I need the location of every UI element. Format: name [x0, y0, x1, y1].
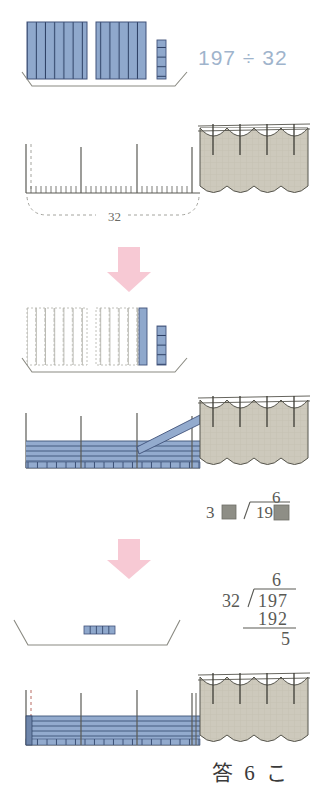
answer-text: 答 6 こ [212, 756, 290, 786]
down-arrow-2 [107, 539, 151, 579]
section-initial-blocks [22, 22, 187, 86]
section-remainder-tray [14, 620, 180, 645]
down-arrow-1 [107, 247, 151, 292]
long-division-remainder: 5 [281, 629, 290, 650]
equation-label: 197 ÷ 32 [198, 46, 288, 70]
section-ruler-curtain-1 [26, 124, 310, 215]
curtain-2 [198, 396, 310, 465]
covered-division-divisor: 3 [206, 503, 215, 523]
section-ghost-blocks [22, 308, 187, 372]
long-division-product: 192 [258, 609, 288, 630]
long-division-divisor: 32 [222, 591, 240, 612]
illustration-stage: 197 ÷ 32 32 6 3 19 6 32 197 192 5 答 6 こ [0, 0, 316, 787]
covered-quotient-digit: 6 [272, 488, 281, 508]
curtain-3 [198, 673, 310, 742]
section-ruler-filled-final [26, 673, 310, 745]
curtain-1 [198, 124, 310, 193]
covered-division-dividend: 19 [256, 503, 273, 523]
divisor-label-32: 32 [108, 209, 121, 225]
section-ruler-filled-partial [26, 396, 310, 468]
math-diagram-svg [0, 0, 316, 787]
long-division-quotient: 6 [272, 570, 281, 591]
